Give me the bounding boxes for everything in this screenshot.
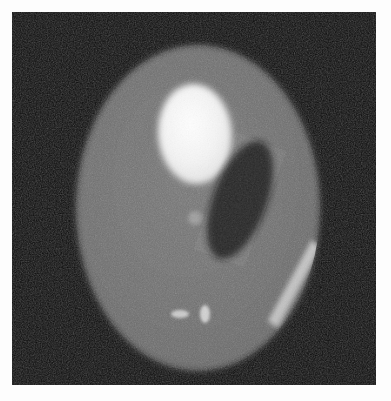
image-viewer [0,0,391,401]
scan-canvas [12,12,376,385]
global-noise-layer [12,12,376,385]
phantom-render [12,12,376,385]
